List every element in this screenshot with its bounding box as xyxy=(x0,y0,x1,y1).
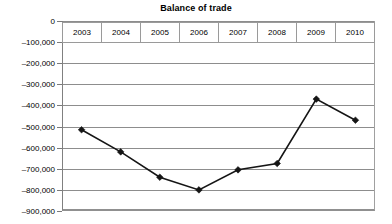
x-axis-tick-label-2007: 2007 xyxy=(219,23,258,42)
y-axis-tick-label: –900,000 xyxy=(0,207,58,216)
y-axis-tick-label: –600,000 xyxy=(0,143,58,152)
x-axis-tick-label-2005: 2005 xyxy=(141,23,180,42)
gridline xyxy=(63,169,374,170)
y-axis-labels: 0–100,000–200,000–300,000–400,000–500,00… xyxy=(0,0,58,224)
balance-of-trade-chart: Balance of trade 0–100,000–200,000–300,0… xyxy=(0,0,392,224)
x-axis-tick-label-2009: 2009 xyxy=(297,23,336,42)
x-axis-labels: 20032004200520062007200820092010 xyxy=(62,22,375,43)
y-axis-tick-label: 0 xyxy=(0,17,58,26)
x-axis-tick-label-2004: 2004 xyxy=(102,23,141,42)
gridline xyxy=(63,148,374,149)
x-axis-tick-label-2006: 2006 xyxy=(180,23,219,42)
gridline xyxy=(63,127,374,128)
gridline xyxy=(63,63,374,64)
gridline xyxy=(63,84,374,85)
y-axis-tick-label: –800,000 xyxy=(0,185,58,194)
y-axis-tick-label: –100,000 xyxy=(0,38,58,47)
y-axis-tick-mark xyxy=(57,211,62,212)
y-axis-tick-label: –200,000 xyxy=(0,59,58,68)
y-axis-tick-label: –300,000 xyxy=(0,80,58,89)
plot-area xyxy=(62,21,375,211)
x-axis-tick-label-2008: 2008 xyxy=(258,23,297,42)
y-axis-tick-label: –400,000 xyxy=(0,101,58,110)
gridline xyxy=(63,105,374,106)
y-axis-tick-label: –500,000 xyxy=(0,122,58,131)
y-axis-tick-label: –700,000 xyxy=(0,164,58,173)
x-axis-tick-label-2010: 2010 xyxy=(336,23,374,42)
gridline xyxy=(63,190,374,191)
x-axis-tick-label-2003: 2003 xyxy=(63,23,102,42)
chart-title: Balance of trade xyxy=(0,3,392,13)
